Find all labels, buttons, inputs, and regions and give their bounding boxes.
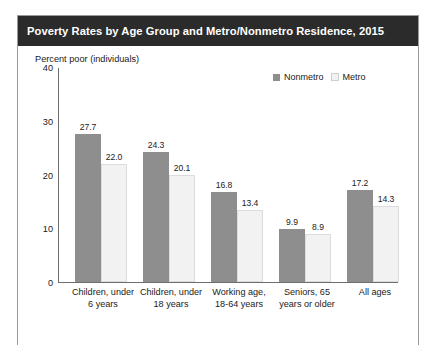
bar-group-working-age: 16.8 13.4	[211, 68, 263, 282]
bar-nonmetro-all-ages	[347, 190, 373, 282]
x-axis-labels: Children, under 6 years Children, under …	[59, 287, 398, 327]
bar-value-metro-all-ages: 14.3	[368, 194, 404, 204]
x-category-seniors-line2: years or older	[259, 299, 355, 311]
y-tick-0: 0	[23, 278, 53, 288]
bar-value-nonmetro-all-ages: 17.2	[342, 178, 378, 188]
plot-area: 40 30 20 10 0 27.7 22.0 24.3 20.1	[58, 68, 398, 283]
bar-group-children-under-18: 24.3 20.1	[143, 68, 195, 282]
bar-value-nonmetro-children-under-6: 27.7	[70, 122, 106, 132]
x-category-all-ages: All ages	[327, 287, 423, 299]
bar-metro-working-age	[237, 210, 263, 282]
y-tick-20: 20	[23, 171, 53, 181]
bar-group-children-under-6: 27.7 22.0	[75, 68, 127, 282]
bar-group-all-ages: 17.2 14.3	[347, 68, 399, 282]
chart-title-bar: Poverty Rates by Age Group and Metro/Non…	[18, 16, 418, 46]
bar-metro-children-under-18	[169, 175, 195, 283]
bar-value-metro-children-under-18: 20.1	[164, 163, 200, 173]
bar-value-metro-seniors: 8.9	[300, 222, 336, 232]
bar-value-metro-working-age: 13.4	[232, 198, 268, 208]
y-tick-40: 40	[23, 63, 53, 73]
y-tick-30: 30	[23, 117, 53, 127]
bar-metro-children-under-6	[101, 164, 127, 282]
bar-nonmetro-seniors	[279, 229, 305, 282]
bars-container: 27.7 22.0 24.3 20.1 16.8 13.4	[59, 68, 398, 282]
x-axis-line	[58, 282, 398, 283]
x-category-all-ages-line1: All ages	[327, 287, 423, 299]
chart-body: Percent poor (individuals) Nonmetro Metr…	[18, 46, 418, 345]
bar-group-seniors: 9.9 8.9	[279, 68, 331, 282]
bar-value-nonmetro-children-under-18: 24.3	[138, 140, 174, 150]
bar-metro-seniors	[305, 234, 331, 282]
bar-value-nonmetro-working-age: 16.8	[206, 180, 242, 190]
bar-value-metro-children-under-6: 22.0	[96, 152, 132, 162]
chart-title: Poverty Rates by Age Group and Metro/Non…	[18, 25, 384, 37]
bar-metro-all-ages	[373, 206, 399, 283]
figure-panel: Poverty Rates by Age Group and Metro/Non…	[17, 15, 419, 345]
y-tick-10: 10	[23, 224, 53, 234]
